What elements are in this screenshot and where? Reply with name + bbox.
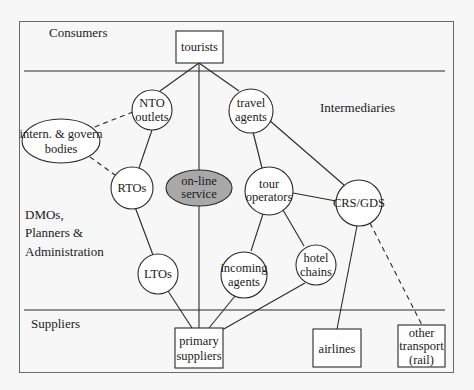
section-label-dmos-line2: Planners & <box>25 225 83 240</box>
node-label: CRS/GDS <box>333 196 385 210</box>
node-label: tourists <box>181 40 218 54</box>
node-nto-outlets: NTO outlets <box>132 90 172 130</box>
node-label: LTOs <box>144 267 172 281</box>
node-travel-agents: travel agents <box>229 89 273 133</box>
node-label: bodies <box>45 142 78 156</box>
node-label: agents <box>228 275 260 289</box>
edge-tour-operators-incoming <box>251 214 263 251</box>
section-label-consumers: Consumers <box>49 25 108 40</box>
node-tour-operators: tour operators <box>245 167 293 215</box>
node-ltos: LTOs <box>138 254 178 294</box>
node-intern-govern-bodies: intern. & govern bodies <box>20 119 104 163</box>
edge-incoming-primary <box>209 296 235 328</box>
node-incoming-agents: incoming agents <box>220 252 268 298</box>
edge-rtos-ltos <box>135 207 153 255</box>
node-label: NTO <box>139 96 164 110</box>
node-label: on-line <box>181 174 217 188</box>
node-primary-suppliers: primary suppliers <box>175 328 223 368</box>
section-label-dmos-line1: DMOs, <box>25 207 64 222</box>
edge-intern-bodies-rtos <box>90 157 115 175</box>
edge-tourists-nto <box>160 63 199 91</box>
section-label-dmos-line3: Administration <box>25 244 104 259</box>
edge-tour-operators-hotels <box>283 210 304 246</box>
edge-crs-airlines <box>337 226 357 329</box>
node-label: primary <box>179 334 219 348</box>
node-label: travel <box>237 96 266 110</box>
node-online-service: on-line service <box>166 170 232 206</box>
node-crs-gds: CRS/GDS <box>333 180 385 226</box>
node-other-transport: other transport (rail) <box>398 325 445 367</box>
node-label: suppliers <box>176 349 221 363</box>
node-airlines: airlines <box>313 329 361 367</box>
node-label: (rail) <box>409 353 434 367</box>
node-label: chains <box>300 265 332 279</box>
node-label: intern. & govern <box>20 127 104 141</box>
outer-frame <box>20 22 454 373</box>
edge-travel-agents-tour-operators <box>253 132 262 168</box>
node-label: tour <box>259 177 280 191</box>
node-label: airlines <box>319 342 356 356</box>
edge-nto-intern-bodies <box>92 112 133 128</box>
node-label: hotel <box>304 251 330 265</box>
edge-nto-rtos <box>139 130 152 168</box>
node-label: transport <box>399 339 444 353</box>
node-hotel-chains: hotel chains <box>296 245 336 285</box>
node-label: operators <box>246 190 293 204</box>
edge-tour-operators-crs <box>293 193 336 201</box>
node-tourists: tourists <box>176 31 223 63</box>
node-label: incoming <box>220 261 268 275</box>
tourism-distribution-diagram: tourists NTO outlets travel agents inter… <box>0 0 474 390</box>
node-label: service <box>181 187 217 201</box>
edge-tourists-travel-agents <box>199 63 239 91</box>
node-label: RTOs <box>118 181 147 195</box>
node-label: outlets <box>135 110 168 124</box>
node-label: agents <box>235 110 267 124</box>
section-label-suppliers: Suppliers <box>31 316 80 331</box>
node-label: other <box>409 326 436 340</box>
section-label-intermediaries: Intermediaries <box>320 100 395 115</box>
node-rtos: RTOs <box>111 167 153 209</box>
